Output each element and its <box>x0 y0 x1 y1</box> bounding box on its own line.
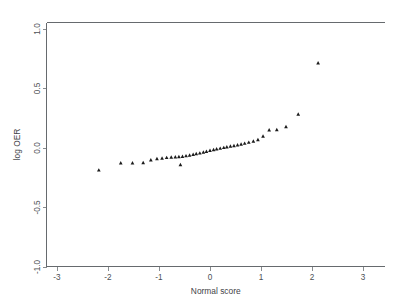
data-point <box>194 152 198 155</box>
data-point <box>252 139 256 142</box>
data-point <box>165 156 169 159</box>
x-axis-ticks: -3-2-10123 <box>53 267 365 282</box>
data-point <box>225 145 229 148</box>
data-point <box>205 149 209 152</box>
y-axis-title: log OER <box>12 129 22 161</box>
data-point <box>256 138 260 141</box>
x-tick-label: -3 <box>53 273 61 282</box>
data-point <box>284 125 288 128</box>
y-tick-label: -1.0 <box>33 259 42 274</box>
y-axis-ticks: -1.0-0.50.00.51.0 <box>33 23 47 274</box>
x-axis-title: Normal score <box>191 286 241 296</box>
plot-frame <box>47 23 386 267</box>
y-tick-label: 0.0 <box>33 142 42 154</box>
data-point <box>212 148 216 151</box>
data-point <box>169 155 173 158</box>
data-point <box>131 161 135 164</box>
data-point <box>316 61 320 64</box>
data-point <box>141 161 145 164</box>
data-point <box>198 151 202 154</box>
data-point <box>179 163 183 166</box>
data-point <box>208 149 212 152</box>
data-point <box>232 144 236 147</box>
x-tick-label: -1 <box>155 273 163 282</box>
data-point <box>191 153 195 156</box>
y-tick-label: 0.5 <box>33 82 42 94</box>
data-point <box>149 158 153 161</box>
data-points-layer <box>97 61 320 172</box>
data-point <box>177 155 181 158</box>
data-point <box>188 153 192 156</box>
data-point <box>247 140 251 143</box>
data-point <box>261 134 265 137</box>
data-point <box>184 154 188 157</box>
data-point <box>267 128 271 131</box>
data-point <box>215 147 219 150</box>
x-tick-label: -2 <box>104 273 112 282</box>
data-point <box>173 155 177 158</box>
x-tick-label: 0 <box>208 273 213 282</box>
data-point <box>97 168 101 171</box>
y-tick-label: -0.5 <box>33 200 42 215</box>
data-point <box>222 146 226 149</box>
data-point <box>160 156 164 159</box>
x-tick-label: 1 <box>259 273 264 282</box>
y-tick-label: 1.0 <box>33 23 42 35</box>
data-point <box>236 143 240 146</box>
data-point <box>239 142 243 145</box>
data-point <box>296 112 300 115</box>
data-point <box>119 161 123 164</box>
data-point <box>275 128 279 131</box>
x-tick-label: 3 <box>361 273 366 282</box>
data-point <box>243 141 247 144</box>
data-point <box>218 146 222 149</box>
data-point <box>229 144 233 147</box>
normal-probability-plot-figure: -1.0-0.50.00.51.0 -3-2-10123 Normal scor… <box>0 0 395 304</box>
data-point <box>202 150 206 153</box>
x-tick-label: 2 <box>310 273 315 282</box>
data-point <box>181 154 185 157</box>
scatter-plot-canvas: -1.0-0.50.00.51.0 -3-2-10123 Normal scor… <box>0 0 395 304</box>
data-point <box>155 157 159 160</box>
